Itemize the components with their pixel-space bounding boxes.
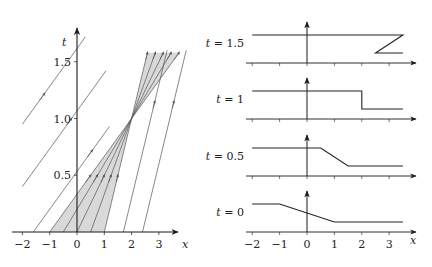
profile-panel: t = 1.5 <box>206 22 416 66</box>
x-tick-label: 3 <box>155 238 162 251</box>
profile-panel: t = 0.5 <box>206 135 416 179</box>
time-label: t = 0 <box>216 206 244 219</box>
solution-profile <box>252 148 403 166</box>
x-tick-label: 1 <box>101 238 108 251</box>
panel-x-tick-label: −2 <box>244 238 260 251</box>
profile-panel: t = 1 <box>216 78 416 122</box>
characteristic-line-fan <box>104 53 147 232</box>
solution-profiles: t = 1.5t = 1t = 0.5t = 0−2−10123x <box>206 22 417 251</box>
time-label: t = 1.5 <box>206 37 244 50</box>
characteristic-line-fan <box>63 53 171 232</box>
solution-profile <box>252 91 403 109</box>
x-tick-label: −2 <box>14 238 30 251</box>
panel-x-tick-label: −1 <box>271 238 287 251</box>
characteristic-line-fan <box>91 53 156 232</box>
x-tick-label: 2 <box>128 238 135 251</box>
t-axis-label: t <box>62 36 67 49</box>
characteristics-plot: −2−101230.51.01.5xt <box>12 28 189 251</box>
x-tick-label: −1 <box>42 238 58 251</box>
t-tick-label: 1.0 <box>54 113 72 126</box>
panel-x-axis-label: x <box>410 234 417 247</box>
solution-profile <box>252 204 403 222</box>
time-label: t = 1 <box>216 93 244 106</box>
time-label: t = 0.5 <box>206 150 244 163</box>
characteristics-figure: −2−101230.51.01.5xt t = 1.5t = 1t = 0.5t… <box>0 0 432 267</box>
characteristic-line-high <box>22 37 85 124</box>
panel-x-tick-label: 3 <box>386 238 393 251</box>
panel-x-tick-label: 1 <box>331 238 338 251</box>
x-tick-label: 0 <box>74 238 81 251</box>
profile-panel: t = 0 <box>216 191 416 235</box>
panel-x-tick-label: 0 <box>304 238 311 251</box>
panel-x-tick-label: 2 <box>358 238 365 251</box>
t-tick-label: 0.5 <box>54 169 72 182</box>
characteristic-line-fan <box>77 53 163 232</box>
t-tick-label: 1.5 <box>54 56 72 69</box>
characteristic-line-fan <box>50 53 179 232</box>
solution-profile <box>252 35 403 53</box>
x-axis-label: x <box>182 238 189 251</box>
